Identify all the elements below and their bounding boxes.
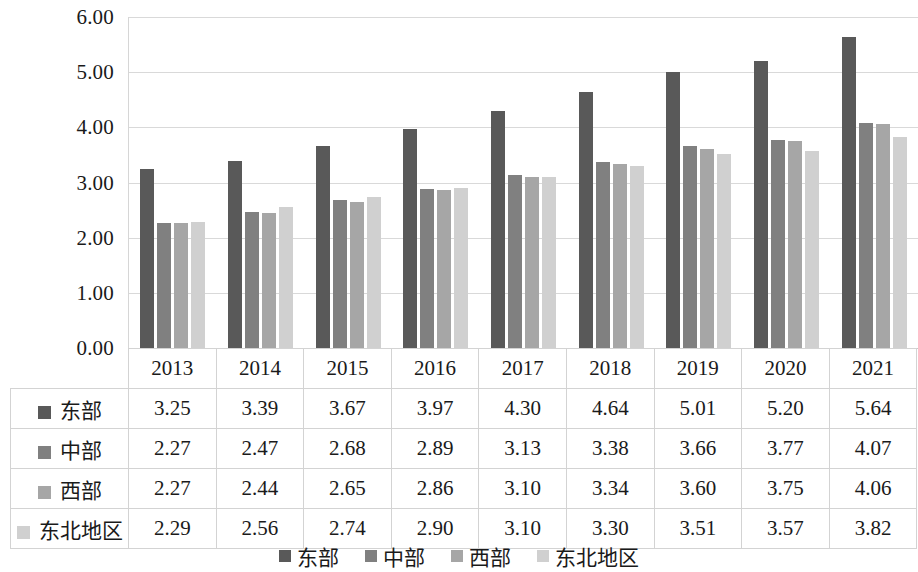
bar [228,161,242,348]
table-cell: 3.34 [566,469,654,509]
legend-color-swatch-icon [365,550,377,562]
bar [245,212,259,348]
bar-group [217,17,305,348]
table-column-header: 2020 [742,349,830,389]
table-corner-cell [11,349,129,389]
bar-group [304,17,392,348]
bar [700,149,714,348]
legend: 东部中部西部东北地区 [0,541,917,571]
bar [262,213,276,348]
legend-item[interactable]: 东北地区 [537,541,639,571]
table-cell: 4.30 [479,389,567,429]
table-row: 中部2.272.472.682.893.133.383.663.774.07 [11,429,917,469]
table-cell: 3.77 [742,429,830,469]
bar [316,146,330,348]
table-series-label: 西部 [60,474,102,504]
table-series-label: 东部 [60,394,102,424]
legend-item[interactable]: 中部 [365,541,425,571]
plot-canvas [128,17,918,348]
series-color-swatch-icon [17,526,30,539]
table-column-header: 2014 [216,349,304,389]
table-cell: 5.01 [654,389,742,429]
table-cell: 4.06 [829,469,917,509]
table-column-header: 2018 [566,349,654,389]
bar [491,111,505,348]
table-cell: 2.86 [391,469,479,509]
bar [876,124,890,348]
table-cell: 2.65 [304,469,392,509]
table-cell: 3.39 [216,389,304,429]
table-column-header: 2021 [829,349,917,389]
series-color-swatch-icon [38,446,51,459]
table-cell: 2.47 [216,429,304,469]
data-table: 201320142015201620172018201920202021 东部3… [10,348,917,549]
bar [579,92,593,348]
bar [279,207,293,348]
table-cell: 3.67 [304,389,392,429]
bar [788,141,802,348]
table-series-key-cell: 中部 [11,429,129,469]
y-axis-tick-label: 6.00 [76,7,114,28]
table-series-label: 中部 [60,434,102,464]
legend-color-swatch-icon [279,550,291,562]
bar-group [743,17,831,348]
bar [350,202,364,348]
legend-color-swatch-icon [537,550,549,562]
table-cell: 3.97 [391,389,479,429]
legend-label: 西部 [469,541,511,571]
bar [630,166,644,348]
bar [542,177,556,348]
bar [683,146,697,348]
legend-label: 东部 [297,541,339,571]
bar [140,169,154,348]
legend-item[interactable]: 东部 [279,541,339,571]
legend-color-swatch-icon [451,550,463,562]
bar [666,72,680,348]
y-axis-tick-label: 3.00 [76,172,114,193]
legend-label: 东北地区 [555,541,639,571]
table-column-header: 2016 [391,349,479,389]
bar [403,129,417,348]
table-cell: 3.25 [129,389,217,429]
table-cell: 2.27 [129,429,217,469]
table-cell: 3.13 [479,429,567,469]
table-cell: 3.38 [566,429,654,469]
bar [842,37,856,348]
bar [805,151,819,348]
bar [613,164,627,348]
bar-group [129,17,217,348]
legend-item[interactable]: 西部 [451,541,511,571]
y-axis-tick-label: 4.00 [76,117,114,138]
table-cell: 5.64 [829,389,917,429]
bar [157,223,171,348]
series-color-swatch-icon [38,486,51,499]
table-cell: 3.75 [742,469,830,509]
data-table-wrapper: 201320142015201620172018201920202021 东部3… [10,348,917,549]
table-cell: 2.89 [391,429,479,469]
bar [717,154,731,348]
bar [454,188,468,348]
plot-area: 0.001.002.003.004.005.006.00 [0,0,917,349]
bar [420,189,434,348]
y-axis-tick-label: 1.00 [76,282,114,303]
bar [596,162,610,348]
bar [754,61,768,348]
table-cell: 3.66 [654,429,742,469]
table-column-header: 2017 [479,349,567,389]
bar-group [567,17,655,348]
bar-group [655,17,743,348]
bar-group [830,17,918,348]
bar [191,222,205,348]
bar [771,140,785,348]
bar [508,175,522,348]
table-series-key-cell: 西部 [11,469,129,509]
bar-groups [129,17,918,348]
table-cell: 2.27 [129,469,217,509]
bar [333,200,347,348]
table-column-header: 2019 [654,349,742,389]
table-series-key-cell: 东部 [11,389,129,429]
bar-group [392,17,480,348]
legend-label: 中部 [383,541,425,571]
bar [437,190,451,348]
table-column-header: 2015 [304,349,392,389]
